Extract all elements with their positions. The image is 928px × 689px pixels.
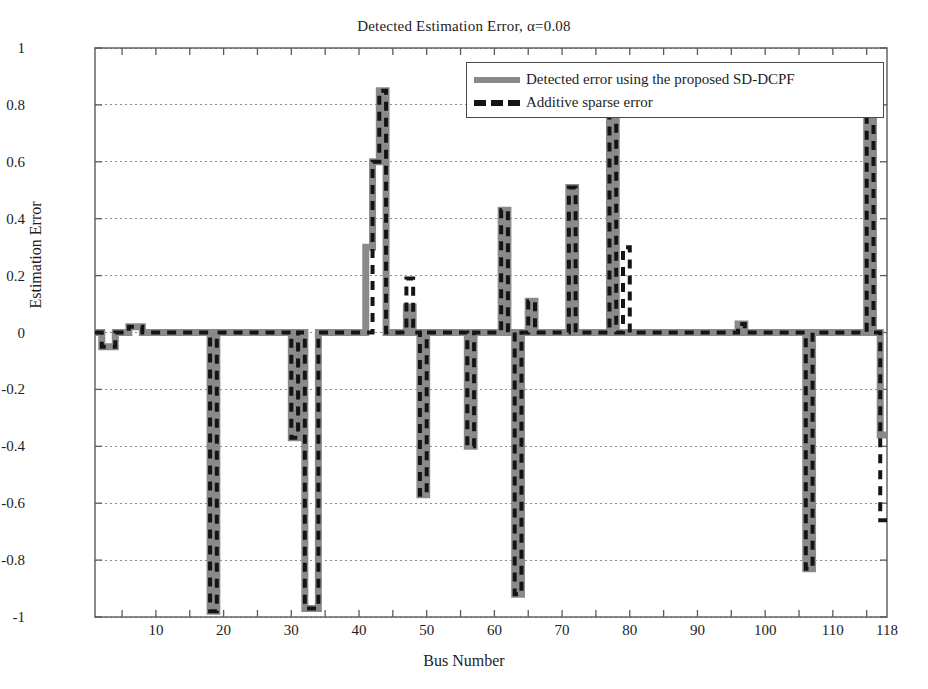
x-tick-label: 10 [126,622,186,639]
y-axis-label: Estimation Error [27,155,45,355]
x-tick-label: 80 [600,622,660,639]
y-tick-label: -0.2 [0,381,25,398]
legend: Detected error using the proposed SD-DCP… [466,62,884,118]
legend-label-sparse: Additive sparse error [526,95,653,110]
y-tick-label: 0 [0,324,25,341]
y-tick-label: -0.8 [0,552,25,569]
legend-swatch-solid-icon [474,77,520,83]
series-line-detected [95,85,887,611]
y-tick-label: -1 [0,609,25,626]
y-tick-label: 0.6 [0,153,25,170]
x-tick-label: 110 [803,622,863,639]
x-axis-label: Bus Number [0,652,928,670]
x-tick-label: 70 [532,622,592,639]
y-tick-label: -0.6 [0,495,25,512]
legend-item-sparse: Additive sparse error [474,91,876,114]
x-tick-label: 90 [667,622,727,639]
chart-figure: Detected Estimation Error, α=0.08 Estima… [0,0,928,689]
x-tick-label: 60 [464,622,524,639]
legend-label-detected: Detected error using the proposed SD-DCP… [526,72,795,87]
y-tick-label: -0.4 [0,438,25,455]
x-tick-label: 100 [735,622,795,639]
y-tick-label: 1 [0,40,25,57]
legend-swatch-dashed-icon [474,100,520,106]
x-tick-label: 20 [194,622,254,639]
x-tick-label: 118 [857,622,917,639]
plot-area [95,48,887,617]
y-tick-label: 0.4 [0,210,25,227]
y-tick-label: 0.8 [0,96,25,113]
y-tick-label: 0.2 [0,267,25,284]
x-tick-label: 40 [329,622,389,639]
legend-item-detected: Detected error using the proposed SD-DCP… [474,68,876,91]
x-tick-label: 50 [397,622,457,639]
plot-canvas [95,48,887,617]
x-tick-label: 30 [261,622,321,639]
chart-title: Detected Estimation Error, α=0.08 [0,18,928,35]
